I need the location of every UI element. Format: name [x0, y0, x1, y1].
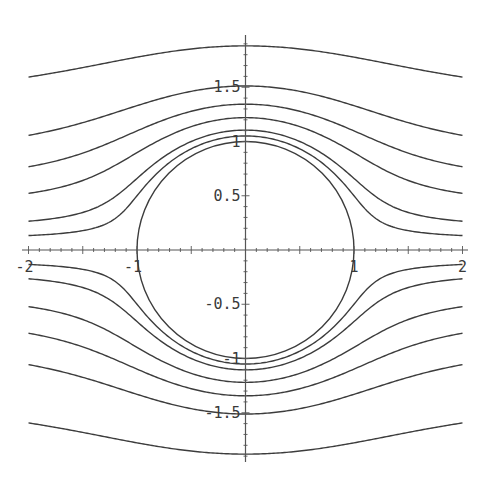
x-tick-label: -1 — [124, 258, 142, 276]
y-tick-label: -1.5 — [204, 404, 240, 422]
y-tick-label: 1.5 — [213, 78, 240, 96]
streamline-plot: -2-112-1.5-1-0.50.511.5 — [0, 0, 491, 486]
axes — [22, 35, 468, 462]
y-tick-label: 1 — [231, 133, 240, 151]
x-tick-label: 1 — [349, 258, 358, 276]
x-tick-label: 2 — [458, 258, 467, 276]
y-tick-label: -1 — [222, 350, 240, 368]
x-tick-label: -2 — [15, 258, 33, 276]
y-tick-label: -0.5 — [204, 295, 240, 313]
y-tick-label: 0.5 — [213, 187, 240, 205]
